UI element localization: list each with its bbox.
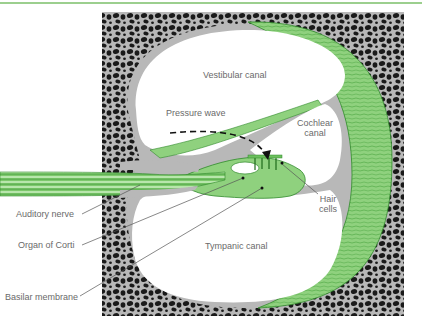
label-vestibular-canal: Vestibular canal bbox=[203, 70, 267, 80]
cochlea-diagram bbox=[0, 0, 422, 328]
label-hair-line1: Hair bbox=[310, 194, 346, 204]
label-basilar-membrane: Basilar membrane bbox=[5, 292, 78, 302]
label-pressure-wave: Pressure wave bbox=[166, 108, 226, 118]
label-hair-cells: Hair cells bbox=[310, 194, 346, 214]
label-cochlear-line2: canal bbox=[290, 128, 340, 138]
label-cochlear-line1: Cochlear bbox=[290, 118, 340, 128]
label-auditory-nerve: Auditory nerve bbox=[16, 209, 74, 219]
label-cochlear-canal: Cochlear canal bbox=[290, 118, 340, 138]
label-tympanic-canal: Tympanic canal bbox=[205, 241, 268, 251]
label-organ-of-corti: Organ of Corti bbox=[18, 240, 75, 250]
label-hair-line2: cells bbox=[310, 204, 346, 214]
